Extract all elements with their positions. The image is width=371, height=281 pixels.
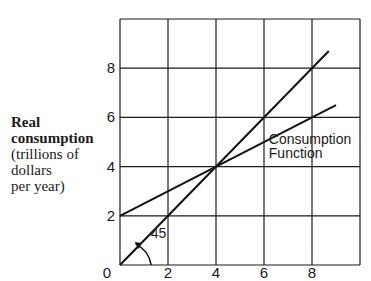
- x-tick-label: 6: [260, 264, 268, 281]
- origin-label: 0: [103, 264, 111, 281]
- series-label: Function: [269, 145, 323, 161]
- x-tick-label: 4: [212, 264, 220, 281]
- y-tick-label: 8: [107, 59, 115, 76]
- y-tick-label: 4: [107, 158, 115, 175]
- x-tick-label: 2: [164, 264, 172, 281]
- y-tick-label: 6: [107, 108, 115, 125]
- chart: 246824680 ConsumptionFunction45: [0, 0, 371, 281]
- y-tick-label: 2: [107, 207, 115, 224]
- angle-label: 45: [151, 225, 167, 241]
- annotations: ConsumptionFunction45: [135, 131, 352, 265]
- x-tick-label: 8: [308, 264, 316, 281]
